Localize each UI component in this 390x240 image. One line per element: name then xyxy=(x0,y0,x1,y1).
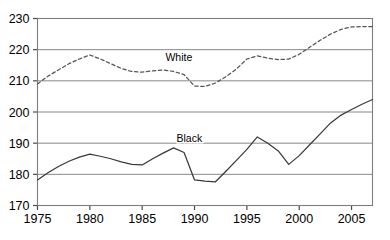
chart-container: 170180190200210220230 197519801985199019… xyxy=(0,0,390,240)
x-tick-label: 1990 xyxy=(181,212,209,226)
x-tick-label: 1980 xyxy=(76,212,104,226)
y-tick-label: 220 xyxy=(9,43,30,57)
y-axis-ticks xyxy=(33,19,38,206)
x-tick-label: 2000 xyxy=(285,212,313,226)
x-axis-tick-labels: 1975198019851990199520002005 xyxy=(24,212,366,226)
y-axis-tick-labels: 170180190200210220230 xyxy=(9,12,30,213)
x-tick-label: 2005 xyxy=(338,212,366,226)
x-tick-label: 1975 xyxy=(24,212,52,226)
x-tick-label: 1985 xyxy=(128,212,156,226)
y-tick-label: 180 xyxy=(9,168,30,182)
y-tick-label: 200 xyxy=(9,106,30,120)
y-tick-label: 210 xyxy=(9,74,30,88)
annotation-white: White xyxy=(165,51,192,63)
y-tick-label: 190 xyxy=(9,137,30,151)
x-tick-label: 1995 xyxy=(233,212,261,226)
y-tick-label: 230 xyxy=(9,12,30,26)
line-chart: 170180190200210220230 197519801985199019… xyxy=(0,0,390,240)
x-axis-ticks xyxy=(38,206,352,211)
annotation-black: Black xyxy=(176,132,202,144)
